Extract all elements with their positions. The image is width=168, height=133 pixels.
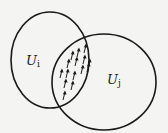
venn-diagram: Ui Uj xyxy=(0,0,168,133)
arrow-icon xyxy=(67,59,71,69)
arrow-icon xyxy=(83,55,87,65)
arrow-icon xyxy=(63,91,67,101)
arrow-icon xyxy=(71,81,75,91)
arrow-icon xyxy=(73,71,77,81)
arrow-icon xyxy=(66,69,70,79)
arrow-icon xyxy=(77,48,81,58)
set-ellipse-uj xyxy=(52,34,156,130)
label-ui: Ui xyxy=(26,53,40,69)
arrow-icon xyxy=(75,57,79,67)
intersection-arrows xyxy=(60,44,92,101)
label-uj: Uj xyxy=(107,72,121,88)
arrow-icon xyxy=(60,69,64,79)
arrow-icon xyxy=(81,65,85,75)
arrow-icon xyxy=(64,79,68,89)
arrow-icon xyxy=(71,51,75,61)
